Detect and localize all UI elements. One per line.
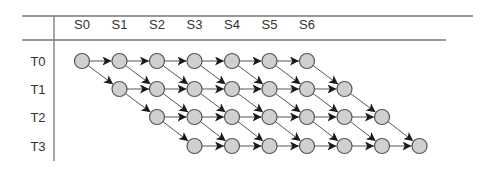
node-t2-7: [337, 110, 352, 125]
column-header-s6: S6: [299, 17, 315, 32]
column-header-s1: S1: [112, 17, 128, 32]
node-t0-6: [300, 54, 315, 69]
node-t0-0: [75, 54, 90, 69]
edge-diagonal-t1-5: [276, 93, 301, 112]
node-t2-5: [262, 110, 277, 125]
edge-diagonal-t0-4: [238, 65, 263, 84]
node-t2-6: [300, 110, 315, 125]
edge-diagonal-t0-6: [313, 65, 338, 84]
node-t1-5: [262, 82, 277, 97]
node-t3-8: [375, 139, 390, 154]
node-t1-1: [112, 82, 127, 97]
edge-diagonal-t2-2: [163, 122, 188, 142]
column-header-s3: S3: [187, 17, 203, 32]
node-t3-5: [262, 139, 277, 154]
row-labels: T0T1T2T3: [30, 54, 45, 154]
node-t0-4: [225, 54, 240, 69]
node-t2-8: [375, 110, 390, 125]
edge-diagonal-t2-8: [388, 122, 413, 142]
edge-diagonal-t0-3: [201, 65, 226, 84]
edge-diagonal-t1-4: [238, 93, 263, 112]
node-t3-7: [337, 139, 352, 154]
edge-diagonal-t2-5: [275, 122, 300, 142]
node-t1-4: [225, 82, 240, 97]
row-label-t0: T0: [30, 54, 45, 69]
column-header-s2: S2: [149, 17, 165, 32]
edge-diagonal-t1-6: [313, 93, 338, 112]
edge-diagonal-t0-1: [126, 65, 151, 84]
edge-diagonal-t1-2: [163, 93, 188, 112]
edge-diagonal-t2-7: [350, 122, 375, 142]
row-label-t2: T2: [30, 110, 45, 125]
edge-diagonal-t1-7: [351, 93, 376, 112]
node-t0-5: [262, 54, 277, 69]
edge-diagonal-t0-2: [163, 65, 188, 84]
column-header-s0: S0: [74, 17, 90, 32]
column-header-s5: S5: [262, 17, 278, 32]
node-t1-3: [187, 82, 202, 97]
node-t0-3: [187, 54, 202, 69]
edge-diagonal-t2-3: [200, 122, 225, 142]
node-t3-9: [412, 139, 427, 154]
node-t0-2: [150, 54, 165, 69]
node-t2-3: [187, 110, 202, 125]
node-t1-2: [150, 82, 165, 97]
column-headers: S0S1S2S3S4S5S6: [74, 17, 315, 32]
pipeline-diagram: S0S1S2S3S4S5S6 T0T1T2T3: [0, 0, 495, 173]
edge-diagonal-t2-6: [313, 122, 338, 142]
column-header-s4: S4: [224, 17, 240, 32]
edge-diagonal-t2-4: [238, 122, 263, 142]
node-t3-3: [187, 139, 202, 154]
row-label-t1: T1: [30, 82, 45, 97]
node-t2-2: [150, 110, 165, 125]
node-t3-4: [225, 139, 240, 154]
node-t0-1: [112, 54, 127, 69]
edge-diagonal-t1-3: [201, 93, 226, 112]
node-t1-7: [337, 82, 352, 97]
edge-diagonal-t1-1: [126, 93, 151, 112]
edges: [88, 61, 413, 146]
node-t3-6: [300, 139, 315, 154]
node-t1-6: [300, 82, 315, 97]
edge-diagonal-t0-5: [276, 65, 301, 84]
edge-diagonal-t0-0: [88, 65, 113, 84]
node-t2-4: [225, 110, 240, 125]
row-label-t3: T3: [30, 139, 45, 154]
